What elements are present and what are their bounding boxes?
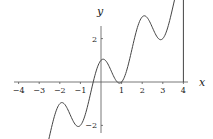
y-tick-label: −2 (85, 121, 97, 130)
x-tick-label: 3 (160, 86, 165, 95)
x-tick-label: 4 (181, 86, 186, 95)
x-axis-label: x (199, 76, 206, 89)
x-tick-label: 2 (140, 86, 145, 95)
axes (14, 26, 188, 133)
x-tick-label: −4 (13, 86, 25, 95)
x-tick-label: 1 (119, 86, 124, 95)
x-tick-label: −1 (75, 86, 87, 95)
x-tick-label: −3 (33, 86, 45, 95)
y-axis-label: y (96, 5, 104, 18)
function-plot: −4−3−2−1123442−2−4 x y (0, 0, 213, 139)
y-tick-label: 2 (92, 35, 97, 44)
ticks: −4−3−2−1123442−2−4 (13, 0, 186, 139)
x-tick-label: −2 (54, 86, 66, 95)
